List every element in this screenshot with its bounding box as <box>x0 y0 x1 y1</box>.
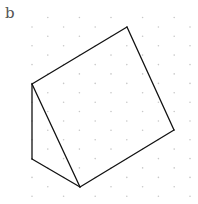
grid-dot <box>63 101 65 103</box>
grid-dot <box>47 148 49 150</box>
grid-dot <box>173 17 175 19</box>
grid-dot <box>158 120 160 122</box>
grid-dot <box>126 120 128 122</box>
grid-dot <box>189 101 191 103</box>
grid-dot <box>63 83 65 85</box>
grid-dot <box>173 73 175 75</box>
grid-dot <box>189 120 191 122</box>
grid-dot <box>63 45 65 47</box>
grid-dot <box>158 83 160 85</box>
grid-dot <box>189 26 191 28</box>
grid-dot <box>142 73 144 75</box>
prism-edge-top-right <box>127 27 174 130</box>
grid-dot <box>31 64 33 66</box>
grid-dot <box>94 195 96 197</box>
grid-dot <box>31 177 33 179</box>
grid-dot <box>94 64 96 66</box>
prism-edge-bottom-left <box>32 84 80 187</box>
grid-dot <box>142 17 144 19</box>
grid-dot <box>173 36 175 38</box>
grid-dot <box>158 158 160 160</box>
grid-dot <box>94 139 96 141</box>
grid-dot <box>47 186 49 188</box>
grid-dot <box>31 45 33 47</box>
grid-dot <box>79 167 81 169</box>
grid-dot <box>142 54 144 56</box>
grid-dot <box>79 36 81 38</box>
grid-dot <box>47 54 49 56</box>
grid-dot <box>173 186 175 188</box>
grid-dot <box>47 36 49 38</box>
grid-dot <box>189 139 191 141</box>
grid-dot <box>110 92 112 94</box>
prism-edge-right-bottom <box>80 130 174 187</box>
grid-dot <box>110 17 112 19</box>
grid-dot <box>110 54 112 56</box>
grid-dot <box>110 130 112 132</box>
grid-dot <box>31 195 33 197</box>
isometric-prism-diagram <box>0 0 198 204</box>
grid-dot <box>158 195 160 197</box>
grid-dot <box>158 101 160 103</box>
grid-dot <box>189 83 191 85</box>
isometric-dot-grid <box>31 17 191 197</box>
grid-dot <box>110 111 112 113</box>
grid-dot <box>126 83 128 85</box>
grid-dot <box>158 64 160 66</box>
grid-dot <box>158 45 160 47</box>
grid-dot <box>126 101 128 103</box>
grid-dot <box>158 177 160 179</box>
grid-dot <box>142 92 144 94</box>
grid-dot <box>110 186 112 188</box>
grid-dot <box>173 54 175 56</box>
grid-dot <box>173 167 175 169</box>
grid-dot <box>189 45 191 47</box>
grid-dot <box>158 26 160 28</box>
grid-dot <box>126 195 128 197</box>
grid-dot <box>110 148 112 150</box>
grid-dot <box>47 92 49 94</box>
grid-dot <box>63 158 65 160</box>
grid-dot <box>189 195 191 197</box>
grid-dot <box>79 111 81 113</box>
grid-dot <box>31 26 33 28</box>
grid-dot <box>142 186 144 188</box>
grid-dot <box>94 101 96 103</box>
grid-dot <box>79 17 81 19</box>
grid-dot <box>189 158 191 160</box>
grid-dot <box>63 195 65 197</box>
grid-dot <box>173 148 175 150</box>
grid-dot <box>94 26 96 28</box>
grid-dot <box>142 36 144 38</box>
grid-dot <box>79 148 81 150</box>
grid-dot <box>47 17 49 19</box>
grid-dot <box>142 130 144 132</box>
grid-dot <box>142 167 144 169</box>
grid-dot <box>47 130 49 132</box>
grid-dot <box>189 64 191 66</box>
grid-dot <box>173 92 175 94</box>
grid-dot <box>47 111 49 113</box>
grid-dot <box>79 130 81 132</box>
grid-dot <box>79 73 81 75</box>
grid-dot <box>63 120 65 122</box>
grid-dot <box>94 120 96 122</box>
grid-dot <box>126 64 128 66</box>
grid-dot <box>126 177 128 179</box>
grid-dot <box>63 26 65 28</box>
grid-dot <box>63 139 65 141</box>
grid-dot <box>189 177 191 179</box>
grid-dot <box>79 92 81 94</box>
grid-dot <box>173 111 175 113</box>
grid-dot <box>126 45 128 47</box>
grid-dot <box>126 139 128 141</box>
grid-dot <box>94 158 96 160</box>
grid-dot <box>142 111 144 113</box>
grid-dot <box>94 83 96 85</box>
prism-edges <box>32 27 174 187</box>
grid-dot <box>110 73 112 75</box>
